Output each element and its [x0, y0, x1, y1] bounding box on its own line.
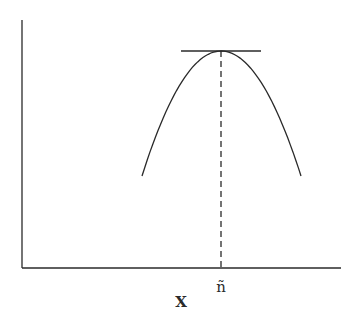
diagram-canvas: ñ X: [0, 0, 359, 320]
peak-label: ñ: [216, 278, 226, 296]
x-axis-label: X: [175, 293, 187, 311]
